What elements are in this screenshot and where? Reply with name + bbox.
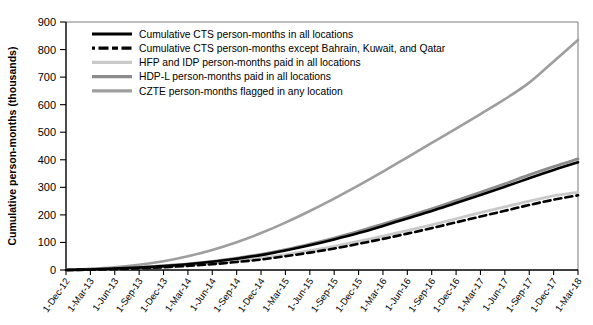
caption-strip <box>0 316 593 325</box>
y-axis-label-text: Cumulative person-months (thousands) <box>6 47 18 246</box>
y-tick-label: 500 <box>38 126 56 138</box>
legend-label-0: Cumulative CTS person-months in all loca… <box>139 29 353 40</box>
y-tick-label: 200 <box>38 209 56 221</box>
y-tick-label: 400 <box>38 154 56 166</box>
y-tick-label: 600 <box>38 99 56 111</box>
line-chart: Cumulative person-months (thousands) 010… <box>0 0 593 325</box>
y-tick-label: 800 <box>38 44 56 56</box>
y-tick-label: 700 <box>38 71 56 83</box>
chart-figure: Cumulative person-months (thousands) 010… <box>0 0 593 325</box>
legend-label-2: HFP and IDP person-months paid in all lo… <box>139 57 361 68</box>
y-tick-label: 900 <box>38 16 56 28</box>
legend-label-3: HDP-L person-months paid in all location… <box>139 71 331 82</box>
y-tick-label: 300 <box>38 181 56 193</box>
y-tick-label: 0 <box>50 264 56 276</box>
legend-label-1: Cumulative CTS person-months except Bahr… <box>139 43 446 54</box>
legend-label-4: CZTE person-months flagged in any locati… <box>139 86 343 97</box>
y-axis-label: Cumulative person-months (thousands) <box>6 47 18 246</box>
y-tick-label: 100 <box>38 236 56 248</box>
